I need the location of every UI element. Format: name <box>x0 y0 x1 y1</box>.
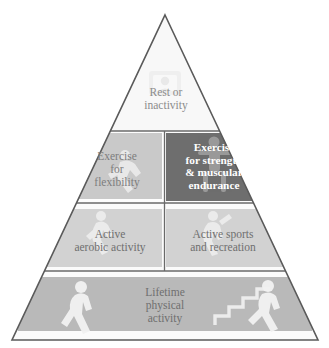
pyramid-graphic <box>0 0 329 348</box>
physical-activity-pyramid: Rest or inactivity Exercise for flexibil… <box>0 0 329 348</box>
television-icon <box>149 71 181 95</box>
